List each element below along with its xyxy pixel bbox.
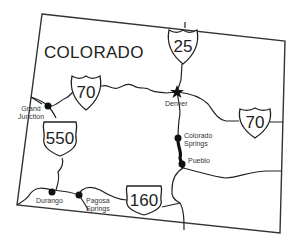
svg-text:25: 25 — [174, 37, 193, 56]
colorado-springs-line1: Colorado — [184, 132, 212, 139]
city-label-colorado-springs: Colorado Springs — [184, 132, 212, 148]
city-label-pueblo: Pueblo — [188, 157, 210, 165]
durango-dot — [49, 189, 56, 196]
grand-junction-line1: Grand — [21, 105, 40, 112]
city-label-durango: Durango — [36, 197, 63, 205]
svg-text:70: 70 — [77, 83, 96, 102]
grand-junction-line2: Junction — [18, 113, 44, 120]
colorado-map: 25 70 70 550 160 — [0, 0, 296, 243]
city-label-grand-junction: Grand Junction — [18, 105, 44, 121]
pueblo-dot — [179, 161, 186, 168]
city-label-denver: Denver — [165, 100, 188, 108]
colorado-springs-line2: Springs — [184, 140, 208, 147]
pagosa-springs-line1: Pagosa — [86, 197, 110, 204]
svg-text:70: 70 — [246, 113, 265, 132]
svg-text:160: 160 — [130, 191, 158, 210]
colorado-springs-dot — [175, 135, 182, 142]
pagosa-springs-dot — [76, 192, 83, 199]
svg-text:550: 550 — [46, 129, 74, 148]
grand-junction-dot — [45, 103, 52, 110]
pagosa-springs-line2: Springs — [86, 205, 110, 212]
city-label-pagosa-springs: Pagosa Springs — [86, 197, 110, 213]
state-label: COLORADO — [44, 43, 144, 63]
